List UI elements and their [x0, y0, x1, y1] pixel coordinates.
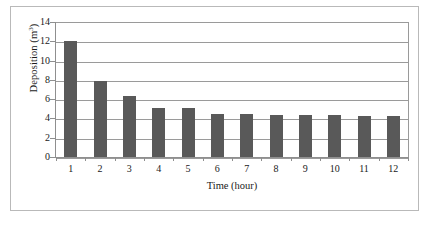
- bar: [211, 114, 224, 158]
- plot-area: [56, 22, 409, 158]
- bar: [152, 108, 165, 158]
- y-axis-ticks: 02468101214: [0, 0, 50, 231]
- y-tick-label: 2: [6, 133, 50, 143]
- gridline: [56, 62, 408, 63]
- y-tick-label: 4: [6, 113, 50, 123]
- y-tick-mark: [50, 80, 55, 81]
- x-tick-mark: [144, 157, 145, 161]
- gridline: [56, 119, 408, 120]
- y-tick-mark: [50, 41, 55, 42]
- gridline: [56, 42, 408, 43]
- x-axis-title: Time (hour): [56, 180, 408, 192]
- gridline: [56, 100, 408, 101]
- bar: [240, 114, 253, 158]
- x-tick-mark: [408, 157, 409, 161]
- y-tick-mark: [50, 138, 55, 139]
- y-tick-mark: [50, 99, 55, 100]
- x-tick-mark: [291, 157, 292, 161]
- y-tick-label: 8: [6, 75, 50, 85]
- x-tick-mark: [349, 157, 350, 161]
- x-tick-label: 12: [373, 163, 413, 174]
- x-tick-mark: [379, 157, 380, 161]
- bar: [64, 41, 77, 158]
- x-tick-mark: [115, 157, 116, 161]
- bar: [94, 81, 107, 158]
- x-tick-mark: [56, 157, 57, 161]
- y-tick-mark: [50, 22, 55, 23]
- bar: [182, 108, 195, 158]
- bar: [299, 115, 312, 158]
- y-tick-label: 0: [6, 152, 50, 162]
- y-tick-label: 6: [6, 94, 50, 104]
- bar: [358, 116, 371, 158]
- x-tick-mark: [203, 157, 204, 161]
- x-tick-mark: [232, 157, 233, 161]
- y-tick-label: 14: [6, 17, 50, 27]
- bar: [270, 115, 283, 158]
- bar: [328, 115, 341, 158]
- bar: [123, 96, 136, 158]
- y-tick-label: 12: [6, 36, 50, 46]
- y-tick-mark: [50, 61, 55, 62]
- y-tick-mark: [50, 118, 55, 119]
- figure: Deposition (m3) 02468101214 Time (hour) …: [0, 0, 431, 231]
- y-tick-label: 10: [6, 56, 50, 66]
- bar: [387, 116, 400, 158]
- gridline: [56, 81, 408, 82]
- gridline: [56, 139, 408, 140]
- x-tick-mark: [85, 157, 86, 161]
- x-tick-mark: [261, 157, 262, 161]
- x-tick-mark: [173, 157, 174, 161]
- y-tick-mark: [50, 157, 55, 158]
- x-tick-mark: [320, 157, 321, 161]
